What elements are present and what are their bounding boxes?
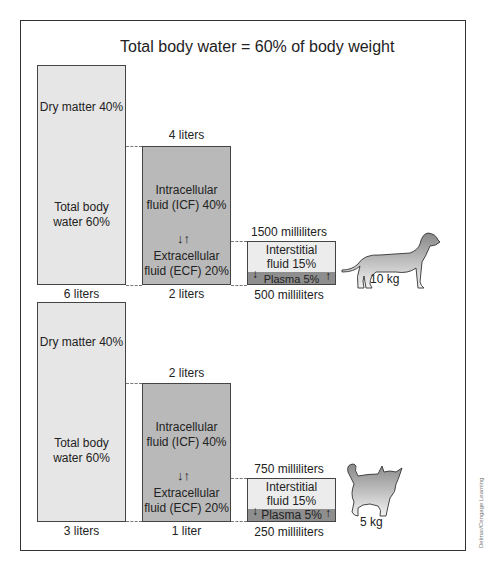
plasma-label: Plasma 5%: [247, 508, 336, 523]
cat-icon: [344, 462, 414, 522]
icf-label-2: fluid (ICF) 40%: [142, 198, 231, 213]
ist-top-volume: 1500 milliliters: [240, 225, 338, 240]
total-water-label-1: Total body: [37, 200, 126, 215]
total-water-label-2: water 60%: [37, 215, 126, 230]
icf-top-volume: 2 liters: [142, 366, 231, 381]
dash-line: [231, 521, 247, 522]
ist-label-2: fluid 15%: [247, 257, 336, 272]
dash-line: [126, 383, 142, 384]
icf-label-1: Intracellular: [142, 420, 231, 435]
dash-line: [231, 285, 247, 286]
dog-weight: 10 kg: [370, 272, 399, 287]
icf-label-1: Intracellular: [142, 183, 231, 198]
ist-label-1: Interstitial: [247, 243, 336, 258]
ist-bottom-volume: 250 milliliters: [240, 525, 338, 540]
ist-bottom-volume: 500 milliliters: [240, 288, 338, 303]
total-volume: 3 liters: [37, 524, 126, 539]
image-credit: Delmar/Cengage Learning: [478, 478, 484, 548]
ecf-label-2: fluid (ECF) 20%: [142, 264, 231, 279]
ist-label-1: Interstitial: [247, 480, 336, 495]
dash-line: [126, 285, 142, 286]
icf-label-2: fluid (ICF) 40%: [142, 435, 231, 450]
plasma-label: Plasma 5%: [247, 272, 336, 287]
icf-top-volume: 4 liters: [142, 128, 231, 143]
ecf-label-2: fluid (ECF) 20%: [142, 501, 231, 516]
up-arrow-icon: ↑: [325, 270, 331, 283]
exchange-arrows-icon: ↓↑: [177, 232, 190, 245]
total-body-box: [37, 65, 126, 285]
exchange-arrows-icon: ↓↑: [177, 469, 190, 482]
dry-matter-label: Dry matter 40%: [37, 100, 126, 115]
icf-bottom-volume: 2 liters: [142, 287, 231, 302]
down-arrow-icon: ↓: [252, 505, 258, 518]
cat-weight: 5 kg: [360, 515, 383, 530]
dash-line: [231, 241, 247, 242]
down-arrow-icon: ↓: [252, 268, 258, 281]
ist-top-volume: 750 milliliters: [240, 462, 338, 477]
ecf-label-1: Extracellular: [142, 486, 231, 501]
dash-line: [231, 478, 247, 479]
ecf-label-1: Extracellular: [142, 249, 231, 264]
ist-label-2: fluid 15%: [247, 494, 336, 509]
up-arrow-icon: ↑: [325, 507, 331, 520]
icf-bottom-volume: 1 liter: [142, 524, 231, 539]
total-volume: 6 liters: [37, 287, 126, 302]
dash-line: [126, 521, 142, 522]
dry-matter-label: Dry matter 40%: [37, 335, 126, 350]
total-water-label-2: water 60%: [37, 451, 126, 466]
diagram-title: Total body water = 60% of body weight: [120, 38, 394, 56]
total-water-label-1: Total body: [37, 436, 126, 451]
dash-line: [126, 146, 142, 147]
